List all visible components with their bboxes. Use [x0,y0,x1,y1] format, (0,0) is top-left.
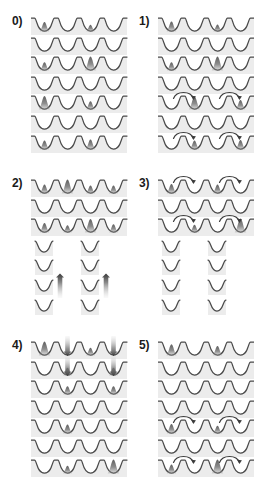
panel-label: 0) [12,15,22,27]
lattice-row-group [158,12,254,160]
lattice-row [158,454,254,478]
lattice-svg [158,130,254,156]
lattice-row-group [31,336,127,484]
split-well-row [31,292,127,316]
lattice-row [31,454,127,478]
panel-2: 2) [0,162,127,324]
panel-3: 3) [127,162,254,324]
lattice-svg [31,454,131,480]
panel-5: 5) [127,324,254,486]
lattice-svg [31,130,131,156]
panel-4: 4) [0,324,127,486]
panel-label: 1) [139,15,149,27]
lattice-svg [158,454,254,480]
panel-1: 1) [127,0,254,162]
panel-label: 3) [139,177,149,189]
lattice-figure: 0)1)2)3)4)5) [0,0,254,486]
lattice-row-group [158,174,254,322]
lattice-svg [158,292,254,318]
panel-label: 4) [12,339,22,351]
panel-label: 2) [12,177,22,189]
lattice-row-group [31,174,127,322]
lattice-row [158,130,254,154]
panel-label: 5) [139,339,149,351]
lattice-svg [31,292,131,318]
lattice-row [31,130,127,154]
split-well-row [158,292,254,316]
panel-0: 0) [0,0,127,162]
lattice-row-group [31,12,127,160]
lattice-row-group [158,336,254,484]
